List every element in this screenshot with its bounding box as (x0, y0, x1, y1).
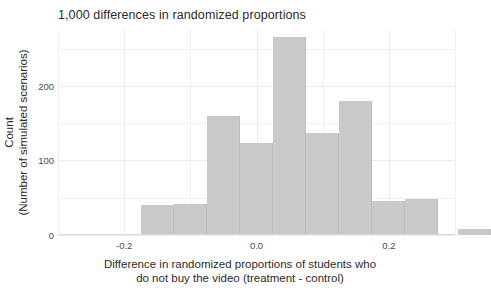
plot-area (58, 30, 455, 235)
x-axis-line (58, 234, 455, 235)
histogram-bar (207, 116, 240, 235)
histogram-bar (174, 204, 207, 235)
histogram-bar (141, 205, 174, 235)
histogram-bar (405, 199, 438, 235)
histogram-bar (306, 133, 339, 235)
histogram-bar (339, 101, 372, 235)
x-axis-title-line-1: Difference in randomized proportions of … (104, 258, 376, 270)
x-axis-title-line-2: do not buy the video (treatment - contro… (40, 271, 440, 285)
gridline-horizontal (58, 235, 455, 236)
histogram-bar (372, 201, 405, 235)
histogram-bar (240, 143, 273, 235)
histogram-bar (458, 229, 491, 235)
histogram-bar (273, 37, 306, 235)
histogram-bars (58, 30, 455, 235)
chart-title: 1,000 differences in randomized proporti… (58, 8, 458, 22)
x-tick-label: 0.2 (369, 240, 409, 251)
y-axis-title-container: Count (Number of simulated scenarios) (0, 0, 30, 250)
x-axis-title: Difference in randomized proportions of … (40, 257, 440, 285)
gridline-vertical (455, 30, 456, 235)
x-tick-label: 0.0 (237, 240, 277, 251)
x-tick-label: -0.2 (104, 240, 144, 251)
y-axis-title: Count (Number of simulated scenarios) (2, 30, 30, 235)
